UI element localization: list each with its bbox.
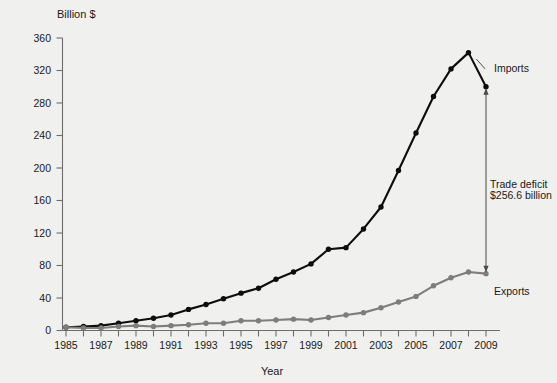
y-axis-tick-label: 280 xyxy=(33,97,51,109)
x-axis-tick-label: 2003 xyxy=(369,339,393,351)
data-point-exports-2004 xyxy=(396,299,401,304)
x-axis-tick-label: 2009 xyxy=(474,339,498,351)
y-axis-tick-label: 120 xyxy=(33,227,51,239)
data-point-imports-1996 xyxy=(256,286,261,291)
y-axis-tick-label: 80 xyxy=(39,259,51,271)
data-point-exports-2002 xyxy=(361,310,366,315)
data-point-exports-1990 xyxy=(151,324,156,329)
data-point-exports-2000 xyxy=(326,315,331,320)
data-point-imports-1997 xyxy=(273,277,278,282)
data-point-imports-1994 xyxy=(221,296,226,301)
x-axis-tick-label: 1993 xyxy=(194,339,218,351)
x-axis-tick-label: 2001 xyxy=(334,339,358,351)
y-axis-tick-label: 160 xyxy=(33,194,51,206)
data-point-imports-2000 xyxy=(326,247,331,252)
x-axis-title: Year xyxy=(261,365,284,377)
data-point-exports-1998 xyxy=(291,316,296,321)
data-point-exports-1992 xyxy=(186,322,191,327)
data-point-imports-2006 xyxy=(431,94,436,99)
data-point-imports-2007 xyxy=(448,66,453,71)
data-point-exports-1996 xyxy=(256,318,261,323)
data-point-imports-1990 xyxy=(151,316,156,321)
data-point-imports-1999 xyxy=(308,261,313,266)
data-point-exports-1989 xyxy=(133,323,138,328)
x-axis-tick-label: 1987 xyxy=(89,339,113,351)
exports-series-label: Exports xyxy=(494,285,530,297)
data-point-exports-1997 xyxy=(273,317,278,322)
x-axis-tick-label: 1999 xyxy=(299,339,323,351)
data-point-exports-1993 xyxy=(203,320,208,325)
data-point-exports-2007 xyxy=(448,275,453,280)
data-point-imports-2001 xyxy=(343,245,348,250)
data-point-exports-1995 xyxy=(238,318,243,323)
data-point-exports-1991 xyxy=(168,323,173,328)
y-axis-tick-label: 40 xyxy=(39,292,51,304)
data-point-imports-1989 xyxy=(133,318,138,323)
y-axis-tick-label: 200 xyxy=(33,162,51,174)
data-point-imports-1991 xyxy=(168,312,173,317)
deficit-label-line1: Trade deficit xyxy=(490,178,547,190)
data-point-exports-1987 xyxy=(98,325,103,330)
data-point-imports-2004 xyxy=(396,168,401,173)
data-point-exports-2005 xyxy=(413,294,418,299)
data-point-exports-2008 xyxy=(466,269,471,274)
x-axis-tick-label: 2007 xyxy=(439,339,463,351)
data-point-imports-2005 xyxy=(413,130,418,135)
data-point-exports-1999 xyxy=(308,317,313,322)
y-axis-title: Billion $ xyxy=(57,8,96,20)
data-point-imports-1995 xyxy=(238,290,243,295)
data-point-imports-1992 xyxy=(186,307,191,312)
x-axis-tick-label: 2005 xyxy=(404,339,428,351)
data-point-exports-2003 xyxy=(378,305,383,310)
imports-series-label: Imports xyxy=(494,62,529,74)
y-axis-tick-label: 360 xyxy=(33,32,51,44)
data-point-exports-1988 xyxy=(116,324,121,329)
data-point-imports-2003 xyxy=(378,204,383,209)
data-point-imports-1993 xyxy=(203,302,208,307)
x-axis-tick-label: 1997 xyxy=(264,339,288,351)
x-axis-tick-label: 1991 xyxy=(159,339,183,351)
data-point-exports-2006 xyxy=(431,283,436,288)
y-axis-tick-label: 0 xyxy=(45,324,51,336)
data-point-imports-2008 xyxy=(466,50,471,55)
x-axis-tick-label: 1995 xyxy=(229,339,253,351)
x-axis-tick-label: 1985 xyxy=(54,339,78,351)
data-point-imports-2002 xyxy=(361,226,366,231)
trade-line-chart: Billion $ Year 0408012016020024028032036… xyxy=(0,0,557,383)
data-point-exports-1986 xyxy=(81,325,86,330)
y-axis-tick-label: 320 xyxy=(33,64,51,76)
y-axis-tick-label: 240 xyxy=(33,129,51,141)
x-axis-tick-label: 1989 xyxy=(124,339,148,351)
data-point-exports-1994 xyxy=(221,320,226,325)
deficit-label-line2: $256.6 billion xyxy=(490,189,552,201)
data-point-exports-2001 xyxy=(343,312,348,317)
data-point-imports-1998 xyxy=(291,269,296,274)
chart-container: Billion $ Year 0408012016020024028032036… xyxy=(0,0,557,383)
data-point-exports-1985 xyxy=(63,325,68,330)
